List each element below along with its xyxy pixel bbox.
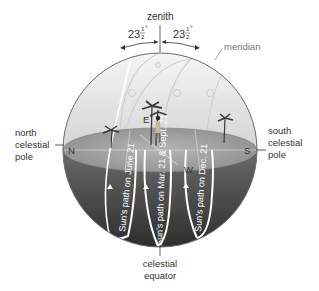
svg-text:celestial: celestial — [15, 139, 49, 150]
svg-text:pole: pole — [15, 151, 33, 162]
svg-text:23: 23 — [128, 28, 140, 40]
sun-icon — [207, 90, 214, 97]
arrowhead-icon — [162, 40, 166, 44]
celestial-sphere-diagram: N S E W Sun's path on June 21 Sun's path… — [0, 0, 319, 291]
svg-text:2: 2 — [186, 34, 190, 40]
svg-text:°: ° — [145, 25, 148, 32]
svg-text:23: 23 — [173, 28, 185, 40]
compass-e: E — [143, 114, 149, 125]
compass-s: S — [244, 145, 250, 156]
arrowhead-icon — [120, 45, 125, 50]
meridian-leader — [215, 49, 222, 60]
svg-text:celestial: celestial — [143, 258, 177, 269]
equator-label: celestial equator — [143, 258, 177, 281]
arrowhead-icon — [195, 45, 200, 50]
meridian-label: meridian — [224, 41, 260, 52]
angle-label-right: 23 1 2 ° — [173, 25, 193, 40]
sun-icon — [129, 90, 136, 97]
svg-text:south: south — [268, 125, 291, 136]
north-pole-label: north celestial pole — [15, 127, 49, 162]
angle-label-left: 23 1 2 ° — [128, 25, 148, 40]
south-pole-label: south celestial pole — [268, 125, 302, 160]
arrowhead-icon — [154, 40, 158, 44]
svg-text:°: ° — [190, 25, 193, 32]
svg-text:2: 2 — [141, 34, 145, 40]
compass-w: W — [184, 164, 193, 175]
svg-text:north: north — [15, 127, 37, 138]
svg-text:celestial: celestial — [268, 137, 302, 148]
angle-arc-right — [162, 42, 198, 48]
sun-icon — [156, 63, 161, 68]
zenith-label: zenith — [147, 11, 174, 22]
compass-n: N — [68, 145, 75, 156]
svg-text:pole: pole — [268, 149, 286, 160]
sun-icon — [174, 90, 181, 97]
svg-text:equator: equator — [144, 270, 176, 281]
angle-arc-left — [122, 42, 158, 48]
